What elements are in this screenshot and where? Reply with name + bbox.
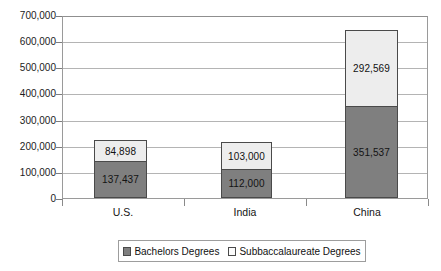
y-tick-label: 600,000 — [20, 37, 56, 47]
x-axis-label-china: China — [306, 206, 428, 219]
legend-label: Bachelors Degrees — [134, 246, 219, 257]
x-axis-label-india: India — [184, 206, 306, 219]
bar-value-label: 137,437 — [102, 174, 139, 185]
bar-value-label: 103,000 — [228, 151, 265, 162]
legend-item-bachelors[interactable]: Bachelors Degrees — [123, 246, 219, 257]
bar-segment-bachelors[interactable]: 112,000 — [221, 169, 272, 198]
bar-segment-subbaccalaureate[interactable]: 292,569 — [345, 30, 398, 107]
light-gray-swatch-icon — [228, 247, 236, 256]
y-tick-label: 400,000 — [20, 89, 56, 99]
x-tick-mark — [428, 199, 429, 206]
x-axis-label-us: U.S. — [62, 206, 184, 219]
bar-segment-bachelors[interactable]: 351,537 — [345, 106, 398, 198]
bar-value-label: 351,537 — [353, 147, 390, 158]
x-tick-mark — [306, 199, 307, 206]
y-tick-label: 500,000 — [20, 63, 56, 73]
y-tick-label: 700,000 — [20, 11, 56, 21]
plot-area: 84,898 137,437 103,000 112,000 292,569 3… — [62, 16, 428, 199]
bar-value-label: 84,898 — [105, 146, 136, 157]
bar-stack-us[interactable]: 84,898 137,437 — [94, 140, 147, 198]
bar-segment-subbaccalaureate[interactable]: 84,898 — [94, 140, 147, 162]
bar-segment-bachelors[interactable]: 137,437 — [94, 161, 147, 198]
bar-stack-india[interactable]: 103,000 112,000 — [221, 142, 272, 198]
stacked-bar-chart: 700,000 600,000 500,000 400,000 300,000 … — [0, 0, 441, 271]
x-tick-mark — [184, 199, 185, 206]
x-tick-mark — [62, 199, 63, 206]
y-tick-label: 100,000 — [20, 168, 56, 178]
bar-value-label: 112,000 — [228, 178, 264, 189]
chart-legend: Bachelors Degrees Subbaccalaureate Degre… — [118, 240, 366, 262]
bar-stack-china[interactable]: 292,569 351,537 — [345, 30, 398, 198]
legend-label: Subbaccalaureate Degrees — [239, 246, 360, 257]
y-axis: 700,000 600,000 500,000 400,000 300,000 … — [0, 0, 56, 271]
y-tick-label: 200,000 — [20, 142, 56, 152]
dark-gray-swatch-icon — [123, 247, 131, 256]
y-tick-label: 300,000 — [20, 116, 56, 126]
bar-value-label: 292,569 — [353, 63, 390, 74]
legend-item-subbaccalaureate[interactable]: Subbaccalaureate Degrees — [228, 246, 360, 257]
bar-segment-subbaccalaureate[interactable]: 103,000 — [221, 142, 272, 170]
